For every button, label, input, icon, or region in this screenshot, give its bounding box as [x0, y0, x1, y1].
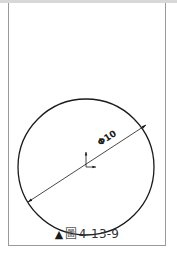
figure-prefix: 圖 [65, 227, 77, 241]
figure-caption: ▲圖4-13-9 [0, 224, 174, 241]
diameter-dimension-line [28, 125, 146, 202]
triangle-marker-icon: ▲ [55, 228, 64, 241]
page-margin [0, 250, 177, 272]
origin-axis-icon [86, 152, 96, 167]
diameter-dimension-text: Φ10 [96, 128, 118, 147]
figure-number: 4-13-9 [79, 227, 119, 241]
